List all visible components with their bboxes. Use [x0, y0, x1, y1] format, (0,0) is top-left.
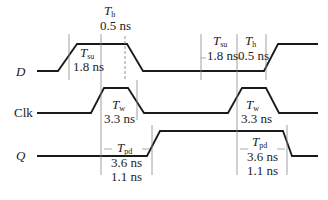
tpd-right-symbol: Tpd [252, 134, 267, 150]
tsu-left-value: 1.8 ns [73, 59, 104, 74]
clk-waveform [37, 88, 318, 113]
timing-diagram: D Clk Q Th 0.5 ns Tsu 1.8 ns Tsu 1.8 ns … [0, 0, 328, 200]
tpd-left-value: 3.6 ns [111, 155, 142, 170]
tpd-left-value2: 1.1 ns [111, 169, 142, 184]
tw-right-value: 3.3 ns [241, 111, 272, 126]
signal-label-d: D [15, 64, 26, 79]
tsu-right-symbol: Tsu [213, 33, 227, 49]
tsu-right-value: 1.8 ns [207, 48, 238, 63]
tpd-right-value2: 1.1 ns [247, 163, 278, 178]
signal-label-clk: Clk [14, 105, 33, 120]
signal-label-q: Q [16, 148, 26, 163]
th-right-symbol: Th [245, 33, 256, 49]
th-left-value: 0.5 ns [100, 18, 131, 33]
tpd-left-symbol: Tpd [117, 140, 132, 156]
tpd-right-value: 3.6 ns [247, 149, 278, 164]
th-left-symbol: Th [104, 3, 115, 19]
tw-left-value: 3.3 ns [104, 111, 135, 126]
th-right-value: 0.5 ns [238, 48, 269, 63]
